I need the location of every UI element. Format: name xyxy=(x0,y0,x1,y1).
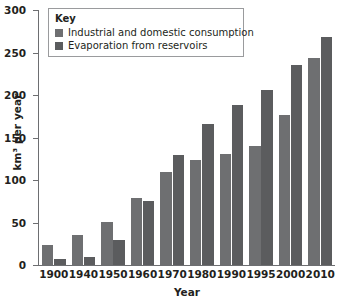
y-axis-tick-label: 300 xyxy=(4,5,26,16)
x-axis-tick-labels: 1900194019501960197019801990199520002010 xyxy=(39,268,335,284)
bar-evaporation xyxy=(321,37,332,265)
bar-industrial xyxy=(131,198,142,265)
bar-group xyxy=(249,10,273,265)
bar-industrial xyxy=(220,154,231,265)
bar-group xyxy=(308,10,332,265)
bar-industrial xyxy=(279,115,290,265)
x-axis-tick-label: 1950 xyxy=(98,268,127,280)
y-axis-tick-label: 200 xyxy=(4,90,26,101)
legend-entry-industrial: Industrial and domestic consumption xyxy=(55,26,237,39)
bar-evaporation xyxy=(143,201,154,265)
bar-industrial xyxy=(72,235,83,265)
x-axis-tick-label: 2010 xyxy=(306,268,335,280)
bar-evaporation xyxy=(173,155,184,266)
legend-label-industrial: Industrial and domestic consumption xyxy=(68,26,254,39)
bar-evaporation xyxy=(202,124,213,265)
legend-swatch-evaporation xyxy=(55,42,63,50)
legend-title: Key xyxy=(55,12,237,25)
x-axis-tick-label: 1900 xyxy=(39,268,68,280)
y-axis-tick-labels: 050100150200250300 xyxy=(0,0,33,304)
x-axis-tick-label: 1990 xyxy=(217,268,246,280)
bar-industrial xyxy=(249,146,260,265)
bar-industrial xyxy=(42,245,53,265)
bar-group xyxy=(279,10,303,265)
y-axis-tick-label: 50 xyxy=(11,217,26,228)
bar-industrial xyxy=(160,172,171,265)
bar-evaporation xyxy=(291,65,302,265)
bar-evaporation xyxy=(232,105,243,265)
bar-industrial xyxy=(101,222,112,265)
bar-evaporation xyxy=(54,259,65,265)
y-axis-tick-label: 0 xyxy=(19,260,26,271)
x-axis-tick-label: 1960 xyxy=(128,268,157,280)
x-axis-tick-label: 1940 xyxy=(69,268,98,280)
y-axis-tick-label: 250 xyxy=(4,47,26,58)
legend-label-evaporation: Evaporation from reservoirs xyxy=(68,39,208,52)
x-axis-line xyxy=(38,265,335,266)
x-axis-title: Year xyxy=(39,286,335,298)
x-axis-tick-label: 1970 xyxy=(158,268,187,280)
x-axis-tick-label: 2000 xyxy=(276,268,305,280)
x-axis-tick-label: 1995 xyxy=(246,268,275,280)
legend-box: Key Industrial and domestic consumption … xyxy=(48,8,244,57)
bar-industrial xyxy=(308,58,319,265)
bar-evaporation xyxy=(261,90,272,265)
x-axis-tick-label: 1980 xyxy=(187,268,216,280)
y-axis-tick-label: 150 xyxy=(4,132,26,143)
bar-evaporation xyxy=(113,240,124,266)
y-axis-tick-label: 100 xyxy=(4,175,26,186)
legend-entry-evaporation: Evaporation from reservoirs xyxy=(55,39,237,52)
bar-industrial xyxy=(190,160,201,265)
bar-evaporation xyxy=(84,257,95,266)
legend-swatch-industrial xyxy=(55,29,63,37)
bar-chart: km³ per year 050100150200250300 19001940… xyxy=(0,0,342,304)
